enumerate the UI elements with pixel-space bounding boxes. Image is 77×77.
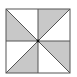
center-point [37,40,40,43]
pinwheel-diagram [0,0,77,77]
